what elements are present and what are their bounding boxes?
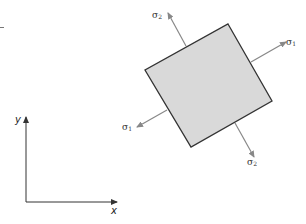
sigma2-bottom-arrow (235, 123, 254, 157)
subscript: 1 (292, 40, 296, 47)
sigma1-left-arrow (137, 110, 167, 127)
subscript: 2 (253, 160, 257, 167)
sigma1-left-label: σ1 (122, 123, 132, 132)
sigma2-bottom-label: σ2 (247, 158, 257, 167)
sigma1-right-arrow (251, 42, 286, 62)
sigma1-right-label: σ1 (286, 38, 296, 47)
stress-element-square (145, 24, 272, 147)
x-axis-label: x (111, 206, 117, 216)
sigma2-top-arrow (168, 13, 186, 46)
stress-diagram (0, 0, 306, 224)
sigma2-top-label: σ2 (152, 11, 162, 20)
subscript: 1 (128, 125, 132, 132)
coordinate-axes (26, 117, 117, 202)
subscript: 2 (158, 13, 162, 20)
y-axis-label: y (15, 115, 21, 125)
